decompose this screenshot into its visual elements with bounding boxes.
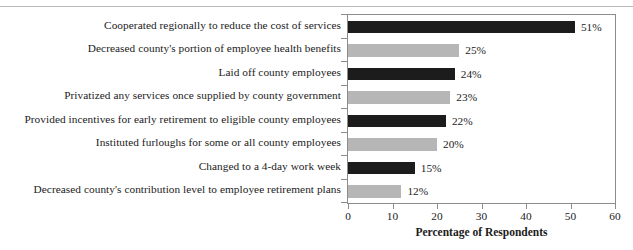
category-label: Changed to a 4-day work week [0, 160, 341, 173]
bar-series: 51%25%24%23%22%20%15%12% [348, 15, 615, 203]
x-axis-tick-label: 0 [345, 209, 351, 223]
category-axis-tick [341, 108, 348, 109]
category-axis-tick [341, 61, 348, 62]
category-axis-tick [341, 155, 348, 156]
bar-row: 22% [348, 115, 615, 128]
category-axis-tick [341, 38, 348, 39]
bar-value-label: 20% [443, 138, 464, 150]
category-label: Decreased county's contribution level to… [0, 183, 341, 196]
bar-value-label: 51% [581, 21, 602, 33]
category-axis-labels: Cooperated regionally to reduce the cost… [0, 14, 341, 204]
category-label: Instituted furloughs for some or all cou… [0, 136, 341, 149]
bar [348, 162, 415, 175]
x-axis-title: Percentage of Respondents [347, 226, 616, 238]
bar-chart-figure: Cooperated regionally to reduce the cost… [0, 0, 633, 250]
bar [348, 44, 459, 57]
category-label: Provided incentives for early retirement… [0, 113, 341, 126]
x-axis-tick-label: 50 [565, 209, 576, 223]
category-label: Cooperated regionally to reduce the cost… [0, 19, 341, 32]
bar-value-label: 12% [407, 185, 428, 197]
bar-row: 51% [348, 21, 615, 34]
category-axis-tick [341, 202, 348, 203]
bar-row: 23% [348, 91, 615, 104]
bar-row: 20% [348, 138, 615, 151]
x-axis-tick-label: 40 [520, 209, 531, 223]
page-top-rule [0, 6, 633, 7]
x-axis-tick-label: 30 [476, 209, 487, 223]
x-axis-tick-labels: 0102030405060 [347, 209, 616, 225]
bar [348, 68, 455, 81]
category-axis-tick [341, 132, 348, 133]
category-axis-tick [341, 85, 348, 86]
bar [348, 91, 450, 104]
bar-row: 15% [348, 162, 615, 175]
bar-value-label: 22% [452, 115, 473, 127]
x-axis-tick-label: 10 [387, 209, 398, 223]
category-label: Privatized any services once supplied by… [0, 89, 341, 102]
bar [348, 138, 437, 151]
bar-value-label: 15% [421, 162, 442, 174]
bar [348, 185, 401, 198]
category-label: Decreased county's portion of employee h… [0, 42, 341, 55]
bar-row: 25% [348, 44, 615, 57]
bar-value-label: 25% [465, 44, 486, 56]
x-axis-tick-label: 20 [431, 209, 442, 223]
bar-value-label: 23% [456, 91, 477, 103]
category-axis-tick [341, 179, 348, 180]
x-axis-tick-label: 60 [609, 209, 620, 223]
bar [348, 21, 575, 34]
category-label: Laid off county employees [0, 66, 341, 79]
bar-value-label: 24% [461, 68, 482, 80]
bar-row: 12% [348, 185, 615, 198]
bar [348, 115, 446, 128]
category-axis-tick [341, 14, 348, 15]
bar-row: 24% [348, 68, 615, 81]
